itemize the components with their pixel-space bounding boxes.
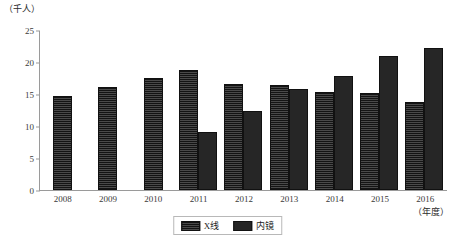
y-axis-tick-label: 5 <box>30 154 35 164</box>
bar-group <box>176 31 221 190</box>
bar-endoscopy[interactable] <box>198 132 217 190</box>
legend-item-xray[interactable]: X线 <box>181 219 220 232</box>
bar-endoscopy[interactable] <box>289 89 308 190</box>
bar-endoscopy[interactable] <box>243 111 262 190</box>
x-axis-tick-label: 2010 <box>131 194 176 204</box>
bar-xray[interactable] <box>224 84 243 190</box>
x-axis-tick-label: 2014 <box>312 194 357 204</box>
bar-xray[interactable] <box>144 78 163 190</box>
x-axis-tick-label: 2016 <box>403 194 448 204</box>
bar-chart: （千人） 0510152025 200820092010201120122013… <box>0 0 455 238</box>
x-axis-tick-label: 2009 <box>85 194 130 204</box>
y-axis-tick-label: 10 <box>25 122 34 132</box>
legend-item-endoscopy[interactable]: 内镜 <box>233 219 274 232</box>
plot-area: 0510152025 <box>39 31 447 191</box>
x-axis-caption: （年度） <box>413 205 449 218</box>
bar-endoscopy[interactable] <box>424 48 443 190</box>
bar-group <box>402 31 447 190</box>
solid-dark-swatch-icon <box>233 221 252 231</box>
y-axis-tick-label: 20 <box>25 58 34 68</box>
legend-item-label: X线 <box>204 219 220 232</box>
bar-groups <box>40 31 447 190</box>
y-axis-tick-mark <box>36 191 40 192</box>
x-axis-tick-label: 2015 <box>357 194 402 204</box>
bar-group <box>221 31 266 190</box>
bar-group <box>40 31 85 190</box>
striped-dark-swatch-icon <box>181 221 200 231</box>
bar-xray[interactable] <box>53 96 72 190</box>
x-axis-tick-label: 2012 <box>221 194 266 204</box>
y-axis-tick-label: 0 <box>30 186 35 196</box>
y-axis-tick-label: 25 <box>25 26 34 36</box>
bar-xray[interactable] <box>179 70 198 190</box>
x-axis-tick-label: 2013 <box>267 194 312 204</box>
bar-group <box>130 31 175 190</box>
x-axis-tick-label: 2008 <box>40 194 85 204</box>
x-axis-tick-label: 2011 <box>176 194 221 204</box>
bar-group <box>266 31 311 190</box>
bar-group <box>357 31 402 190</box>
bar-xray[interactable] <box>270 85 289 190</box>
x-axis-line <box>39 190 447 191</box>
bar-xray[interactable] <box>315 92 334 190</box>
bar-xray[interactable] <box>98 87 117 190</box>
x-axis-labels: 200820092010201120122013201420152016 <box>40 194 448 204</box>
bar-xray[interactable] <box>405 102 424 190</box>
y-axis-tick-label: 15 <box>25 90 34 100</box>
chart-legend: X线 内镜 <box>173 216 283 235</box>
bar-group <box>85 31 130 190</box>
bar-group <box>311 31 356 190</box>
y-axis-unit-caption: （千人） <box>4 2 40 15</box>
bar-endoscopy[interactable] <box>379 56 398 190</box>
bar-endoscopy[interactable] <box>334 76 353 190</box>
legend-item-label: 内镜 <box>256 219 274 232</box>
bar-xray[interactable] <box>360 93 379 190</box>
